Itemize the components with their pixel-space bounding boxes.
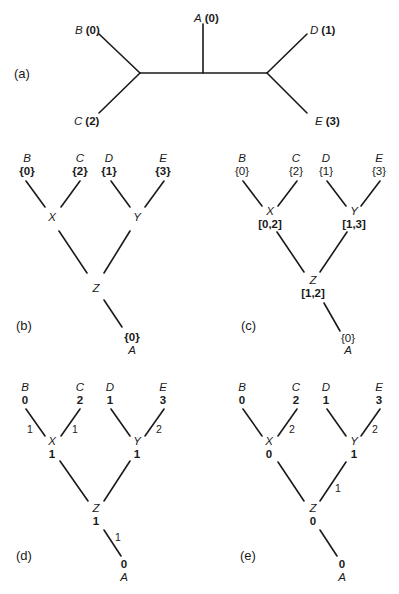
edge-e-y: [145, 181, 164, 207]
leaf-a-name: A: [337, 571, 346, 583]
node-y-value: 1: [351, 448, 358, 460]
edge-e: [267, 73, 307, 113]
edge-d-y: [327, 409, 346, 436]
panel-a: (a) A(0) B(0) C(2) D(1) E(3): [14, 12, 340, 127]
leaf-c-value: 2: [293, 394, 299, 406]
edge-label-e-y: 2: [156, 423, 162, 435]
leaf-c-name: C: [292, 152, 301, 164]
node-c: C(2): [74, 115, 100, 127]
leaf-d-name: D: [105, 152, 113, 164]
edge-d-y: [327, 181, 346, 206]
panel-c: (c) B {0} C {2} D {1} E {3} X [0,2] Y [1…: [235, 152, 386, 356]
edge-z-a: [320, 530, 337, 556]
leaf-a-name: A: [127, 344, 136, 356]
node-x-value: 1: [49, 448, 56, 460]
node-z: Z: [308, 274, 317, 286]
leaf-d-set: {1}: [101, 165, 117, 177]
node-y-interval: [1,3]: [342, 218, 366, 230]
edge-label-z-a: 1: [115, 531, 121, 543]
panel-label-c: (c): [241, 318, 256, 333]
edge-b-x: [26, 181, 45, 207]
edge-x-z: [59, 231, 87, 273]
node-y-value: 1: [134, 448, 141, 460]
leaf-b-value: 0: [22, 394, 28, 406]
panel-label-a: (a): [14, 66, 30, 81]
edge-y-z: [320, 232, 347, 272]
leaf-b-value: 0: [239, 394, 245, 406]
edge-d-y: [111, 409, 130, 436]
edge-label-c-x: 2: [289, 423, 295, 435]
edge-c-x: [278, 181, 297, 206]
node-z-value: 0: [310, 515, 316, 527]
leaf-c-name: C: [292, 381, 301, 393]
node-y: Y: [350, 205, 359, 217]
edge-y-z: [104, 231, 130, 273]
leaf-a-set: {0}: [341, 332, 355, 344]
leaf-e-name: E: [159, 152, 167, 164]
edge-b-x: [243, 409, 262, 436]
leaf-a-name: A: [119, 571, 128, 583]
node-y: Y: [350, 435, 359, 447]
leaf-b-set: {0}: [19, 165, 35, 177]
edge-label-c-x: 1: [72, 423, 78, 435]
leaf-e-name: E: [159, 381, 167, 393]
edge-d: [267, 34, 307, 73]
leaf-b-name: B: [238, 381, 246, 393]
leaf-c-name: C: [76, 381, 85, 393]
panel-b: (b) B {0} C {2} D {1} E {3} X Y Z {0} A: [16, 152, 171, 356]
edge-label-e-y: 2: [372, 423, 378, 435]
node-y: Y: [133, 211, 142, 223]
leaf-e-value: 3: [160, 394, 166, 406]
leaf-b-name: B: [21, 381, 29, 393]
edge-z-a: [104, 300, 122, 327]
node-z-value: 1: [93, 515, 100, 527]
edge-label-b-x: 1: [27, 423, 33, 435]
leaf-b-set: {0}: [235, 165, 249, 177]
edge-x-z: [60, 461, 88, 501]
edge-c: [99, 73, 140, 113]
node-z: Z: [308, 502, 317, 514]
phylogeny-figure: (a) A(0) B(0) C(2) D(1) E(3) (b) B {0} C…: [0, 0, 399, 594]
panel-label-d: (d): [16, 548, 32, 563]
leaf-e-set: {3}: [372, 165, 386, 177]
edge-label-y-z: 1: [335, 482, 341, 494]
leaf-c-name: C: [76, 152, 85, 164]
node-x-interval: [0,2]: [258, 218, 282, 230]
panel-d: (d) B 0 C 2 D 1 E 3 1 1 2 1 X 1 Y 1 Z 1 …: [16, 381, 167, 583]
node-x: X: [264, 435, 274, 447]
node-x: X: [265, 205, 275, 217]
leaf-d-name: D: [322, 381, 330, 393]
edge-e-y: [361, 181, 380, 206]
panel-label-b: (b): [16, 318, 32, 333]
edge-c-x: [61, 181, 80, 207]
edge-b: [99, 34, 140, 73]
leaf-e-set: {3}: [155, 165, 171, 177]
leaf-c-value: 2: [77, 394, 83, 406]
node-y: Y: [133, 435, 142, 447]
edge-y-z: [104, 461, 130, 501]
panel-e: (e) B 0 C 2 D 1 E 3 2 2 1 X 0 Y 1 Z 0 0 …: [238, 381, 383, 583]
leaf-e-value: 3: [376, 394, 382, 406]
leaf-d-value: 1: [107, 394, 114, 406]
node-z: Z: [91, 282, 100, 294]
edge-y-z: [320, 462, 346, 501]
edge-z-a: [324, 303, 340, 331]
leaf-c-set: {2}: [72, 165, 88, 177]
node-z: Z: [91, 502, 100, 514]
node-z-interval: [1,2]: [301, 287, 325, 299]
node-x-value: 0: [266, 448, 272, 460]
leaf-a-set: {0}: [124, 331, 140, 343]
edge-x-z: [278, 462, 304, 501]
node-x: X: [47, 435, 57, 447]
leaf-d-set: {1}: [319, 165, 333, 177]
leaf-a-name: A: [343, 344, 352, 356]
leaf-c-set: {2}: [289, 165, 303, 177]
leaf-e-name: E: [375, 152, 383, 164]
node-d: D(1): [310, 24, 336, 36]
panel-label-e: (e): [240, 548, 256, 563]
leaf-d-name: D: [322, 152, 330, 164]
leaf-d-value: 1: [323, 394, 330, 406]
node-b: B(0): [75, 24, 100, 36]
leaf-a-value: 0: [121, 558, 127, 570]
edge-d-y: [111, 181, 130, 207]
